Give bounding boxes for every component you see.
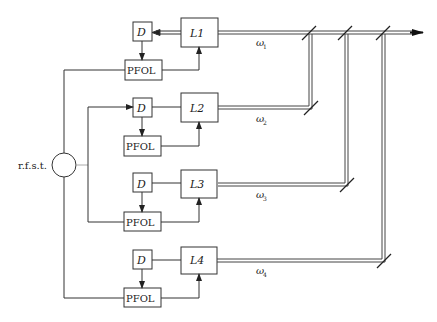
svg-text:1: 1 xyxy=(263,43,267,50)
mirror-4 xyxy=(377,254,391,268)
detector-label-4: D xyxy=(136,254,146,267)
svg-text:2: 2 xyxy=(263,119,267,126)
svg-text:3: 3 xyxy=(263,195,267,202)
pfol-label-3: PFOL xyxy=(126,217,155,228)
laser-label-l2: L2 xyxy=(189,102,204,115)
frequency-label-3: ω 3 xyxy=(256,189,267,202)
laser-locking-diagram: r.f.s.t. D L1 PFOL D L2 PFOL D L3 PFOL D… xyxy=(0,0,437,322)
laser-label-l3: L3 xyxy=(189,178,204,191)
frequency-label-4: ω 4 xyxy=(256,265,267,278)
detector-label-3: D xyxy=(136,178,146,191)
frequency-label-1: ω 1 xyxy=(256,37,267,50)
rfst-source-circle xyxy=(52,153,76,177)
detector-label-1: D xyxy=(136,26,146,39)
svg-text:4: 4 xyxy=(263,271,267,278)
splitter-3 xyxy=(376,26,390,40)
frequency-label-2: ω 2 xyxy=(256,113,267,126)
pfol-label-2: PFOL xyxy=(126,141,155,152)
laser-label-l1: L1 xyxy=(189,27,204,40)
mirror-3 xyxy=(340,178,354,192)
laser-label-l4: L4 xyxy=(189,254,204,267)
optical-beams xyxy=(217,31,423,262)
rfst-label: r.f.s.t. xyxy=(18,160,47,171)
pfol-label-1: PFOL xyxy=(127,65,156,76)
pfol-label-4: PFOL xyxy=(126,293,155,304)
mirror-2 xyxy=(304,101,318,115)
detector-label-2: D xyxy=(136,102,146,115)
beam-splitters xyxy=(302,26,391,268)
